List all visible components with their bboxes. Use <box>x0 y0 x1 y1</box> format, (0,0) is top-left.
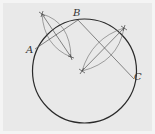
diagram-canvas: A B C <box>3 3 152 131</box>
label-c: C <box>134 71 142 82</box>
label-a: A <box>25 44 33 55</box>
circle <box>33 19 137 123</box>
bisector-bc <box>82 28 124 71</box>
geometry-diagram: A B C <box>3 3 155 134</box>
chord-ab <box>35 20 78 49</box>
label-b: B <box>72 7 80 18</box>
